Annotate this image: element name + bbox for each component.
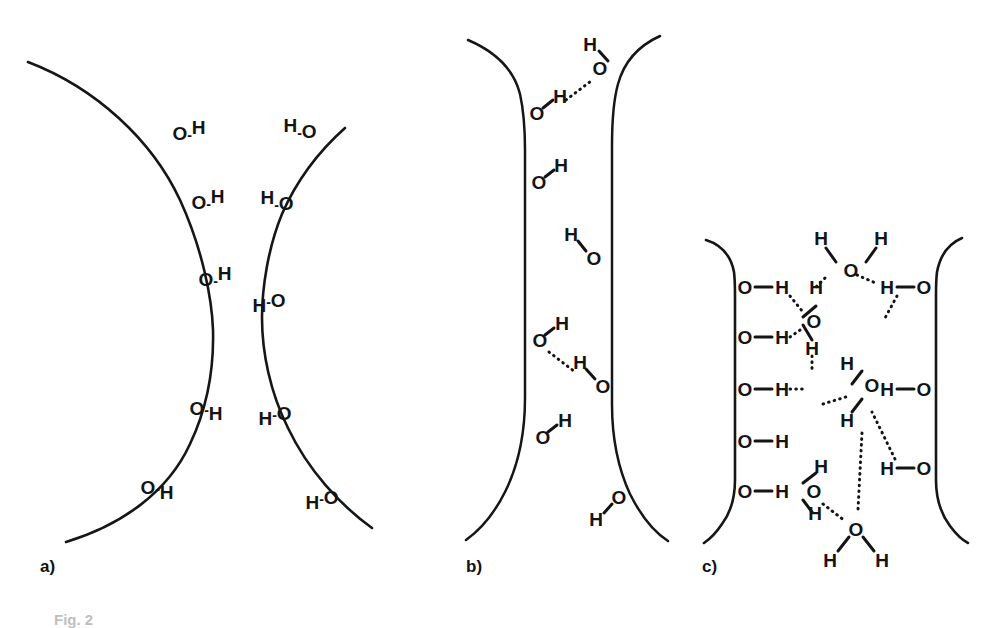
panel-c-wall-left-h-2: H — [775, 328, 789, 347]
panel-c-water-1-h-right: H — [874, 229, 888, 248]
panel-c-wall-right-h-3: H — [880, 459, 894, 478]
panel-c-left-wall — [704, 240, 735, 543]
panel-a-hydroxyl-right-2: H‑O — [260, 194, 293, 213]
panel-c-water-4-o: O — [807, 482, 822, 501]
hbond-b-2 — [549, 352, 575, 372]
bond-c-w1-h2 — [866, 248, 876, 262]
hbond-c-2 — [790, 328, 803, 337]
panel-b-walls — [466, 36, 668, 541]
panel-c-water-1-donor-h: H — [809, 278, 823, 297]
panel-c-water-3-h-top: H — [840, 354, 854, 373]
bond-b-oh-1 — [543, 100, 553, 108]
figure-caption: Fig. 2 — [54, 611, 93, 628]
bond-c-w1-h1 — [826, 248, 836, 262]
panel-c-wall-right-h-2: H — [880, 380, 894, 399]
bond-b-h2o-2 — [578, 241, 586, 251]
panel-a-right-wall — [262, 128, 372, 528]
panel-a-hydroxyl-right-4: H‑O — [258, 404, 291, 423]
panel-b-covalent-bonds — [543, 51, 612, 513]
panel-c-wall-left-h-5: H — [775, 482, 789, 501]
bond-c-w5-h1 — [838, 537, 849, 551]
panel-c-wall-left-o-3: O — [738, 380, 753, 399]
panel-c-wall-left-h-1: H — [775, 278, 789, 297]
panel-c-wall-left-o-1: O — [738, 278, 753, 297]
panel-c-wall-left-h-4: H — [775, 432, 789, 451]
panel-a-hydroxyl-left-4: O‑H — [189, 399, 222, 418]
panel-b-hydroxyl-right-1: H — [589, 510, 603, 529]
panel-c-water-1-h-left: H — [814, 229, 828, 248]
panel-c-water-2-o: O — [807, 312, 822, 331]
panel-b-hydrogen-left-4: H — [558, 411, 572, 430]
panel-a-hydroxyl-left-2: O‑H — [191, 193, 224, 212]
panel-label-a: a) — [40, 557, 55, 577]
panel-a-hydroxyl-right-1: H‑O — [283, 122, 316, 141]
hbond-c-10 — [823, 504, 845, 521]
panel-c-wall-left-o-5: O — [738, 482, 753, 501]
panel-b-hydrogen-left-1: H — [553, 87, 567, 106]
panel-b-water-3-h: H — [573, 353, 587, 372]
panel-c-wall-left-h-3: H — [775, 380, 789, 399]
panel-c-wall-right-o-1: O — [917, 278, 932, 297]
hbond-c-1 — [790, 296, 803, 312]
panel-c-wall-right-o-2: O — [917, 380, 932, 399]
hbond-c-11 — [858, 433, 862, 510]
panel-a-hydroxyl-left-3: O‑H — [198, 270, 231, 289]
panel-b-hydrogen-left-3: H — [555, 314, 569, 333]
panel-c-water-4-h-top: H — [814, 457, 828, 476]
panel-c-wall-right-h-1: H — [880, 278, 894, 297]
panel-b-water-2-o: O — [587, 249, 602, 268]
hbond-c-6 — [885, 296, 897, 318]
panel-b-hydroxyl-left-4: O — [536, 428, 551, 447]
panel-c-water-3-o: O — [865, 376, 880, 395]
panel-c-wall-right-o-3: O — [917, 459, 932, 478]
panel-c-right-wall — [936, 238, 968, 543]
hbond-b-1 — [566, 81, 591, 100]
panel-b-hydroxyl-left-1: O — [530, 104, 545, 123]
panel-b-water-2-h: H — [564, 225, 578, 244]
panel-label-c: c) — [702, 557, 717, 577]
panel-b-water-1-o: O — [593, 59, 608, 78]
panel-a-hydroxyl-left-5: O‑H — [140, 478, 173, 497]
panel-label-b: b) — [466, 557, 482, 577]
panel-c-water-3-h-bottom: H — [840, 411, 854, 430]
hbond-c-9 — [872, 412, 895, 459]
panel-c-water-5-donor-h: H — [808, 504, 822, 523]
panel-b-hydroxyl-left-2: O — [532, 173, 547, 192]
panel-a-hydroxyl-left-1: O‑H — [172, 124, 205, 143]
panel-a-hydroxyl-right-5: H‑O — [305, 488, 338, 507]
panel-c-water-5-h-right: H — [875, 551, 889, 570]
panel-c-water-5-h-left: H — [823, 551, 837, 570]
bond-b-h2o-3 — [586, 369, 595, 379]
panel-b-water-3-o: O — [596, 377, 611, 396]
panel-b-right-wall — [612, 36, 668, 541]
panel-c-water-5-o: O — [849, 520, 864, 539]
hbond-c-4 — [857, 275, 878, 284]
panel-c-wall-left-o-2: O — [738, 328, 753, 347]
bond-c-w5-h2 — [863, 537, 874, 551]
panel-c-water-2-h-down: H — [805, 339, 819, 358]
panel-b-hydrogen-left-2: H — [554, 156, 568, 175]
panel-b-water-1-h: H — [583, 35, 597, 54]
panel-c-water-1-o: O — [844, 261, 859, 280]
panel-a-hydroxyl-right-3: H‑O — [252, 291, 285, 310]
panel-b-hydroxyl-right-1-o: O — [612, 488, 627, 507]
panel-b-hydroxyl-left-3: O — [533, 331, 548, 350]
hbond-c-8 — [823, 396, 849, 404]
panel-c-wall-left-o-4: O — [738, 432, 753, 451]
panel-b-left-wall — [466, 40, 525, 540]
